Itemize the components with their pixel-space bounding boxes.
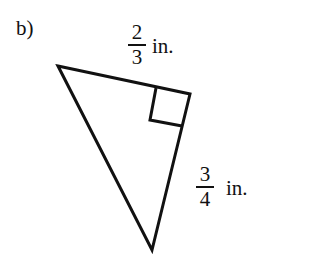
top-side-unit: in. bbox=[152, 36, 174, 57]
fraction-denominator: 3 bbox=[130, 47, 145, 68]
fraction-denominator: 4 bbox=[198, 189, 213, 210]
right-side-fraction: 3 4 bbox=[196, 164, 214, 210]
fraction-numerator: 2 bbox=[130, 22, 145, 43]
right-side-unit: in. bbox=[226, 178, 248, 199]
fraction-numerator: 3 bbox=[198, 164, 213, 185]
top-side-fraction: 2 3 bbox=[128, 22, 146, 68]
triangle-outline bbox=[58, 66, 190, 250]
right-angle-marker bbox=[150, 88, 182, 126]
